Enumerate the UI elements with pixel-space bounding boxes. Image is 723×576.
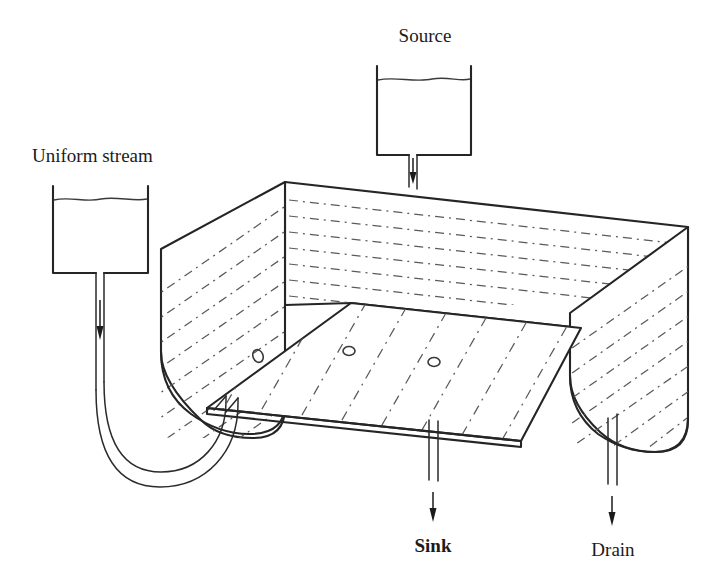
source-flow-arrow — [410, 158, 417, 184]
sink-label: Sink — [415, 535, 452, 556]
drain-flow-arrow — [609, 496, 616, 526]
uniform-liquid-level-line — [54, 198, 147, 200]
source-assembly: Source — [377, 25, 471, 189]
source-liquid-level-line — [378, 78, 470, 80]
source-label: Source — [399, 25, 452, 46]
uniform-stream-label: Uniform stream — [32, 145, 153, 166]
drain-label: Drain — [591, 539, 635, 560]
sink-assembly: Sink — [415, 420, 452, 556]
apparatus-diagram: Source — [0, 0, 723, 576]
sink-flow-arrow — [430, 492, 437, 522]
uniform-stream-flow-arrow — [97, 300, 104, 340]
diagram-canvas: Source — [0, 0, 723, 576]
